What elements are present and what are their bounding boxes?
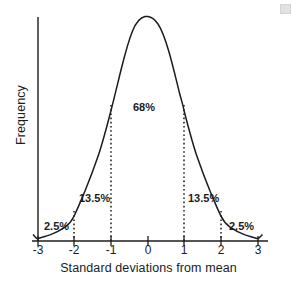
x-tick-label-minus-3: -3 <box>26 243 50 257</box>
x-tick-label-plus-3: 3 <box>246 243 270 257</box>
x-tick-label-plus-2: 2 <box>209 243 233 257</box>
x-tick-label-minus-2: -2 <box>62 243 86 257</box>
x-tick-label-plus-1: 1 <box>172 243 196 257</box>
normal-distribution-figure: Frequency Standard deviations from mean … <box>0 0 297 287</box>
x-tick-label-minus-1: -1 <box>99 243 123 257</box>
sd-dotted-lines <box>74 105 221 241</box>
percent-label-left-outer: 2.5% <box>44 220 69 232</box>
x-tick-label-zero: 0 <box>136 243 160 257</box>
bell-curve <box>33 16 263 238</box>
percent-label-right-outer: 2.5% <box>229 220 254 232</box>
x-axis-label: Standard deviations from mean <box>0 261 297 275</box>
percent-label-left-inner: 13.5% <box>79 192 110 204</box>
percent-label-center: 68% <box>133 101 155 113</box>
scan-artifact <box>280 4 291 14</box>
percent-label-right-inner: 13.5% <box>188 192 219 204</box>
y-axis-label: Frequency <box>14 70 28 160</box>
